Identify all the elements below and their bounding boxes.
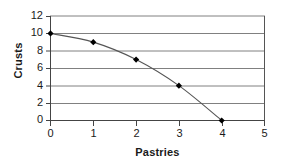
y-tick-label: 10 bbox=[31, 26, 43, 38]
data-point bbox=[90, 39, 96, 45]
x-tick-label: 4 bbox=[219, 127, 225, 139]
gridlines-horizontal bbox=[50, 34, 265, 104]
x-tick-label: 5 bbox=[261, 127, 267, 139]
plot-area: 0 2 4 6 8 10 12 0 1 2 3 4 5 bbox=[0, 0, 299, 165]
y-tick-label: 8 bbox=[37, 44, 43, 56]
y-tick-label: 2 bbox=[37, 96, 43, 108]
series-line bbox=[51, 33, 222, 120]
x-tick-label: 0 bbox=[47, 127, 53, 139]
series-markers bbox=[47, 30, 224, 123]
x-tick-label: 3 bbox=[176, 127, 182, 139]
x-tick-labels: 0 1 2 3 4 5 bbox=[47, 127, 267, 139]
x-axis-ticks bbox=[51, 121, 265, 126]
y-tick-labels: 0 2 4 6 8 10 12 bbox=[31, 9, 43, 125]
y-tick-label: 0 bbox=[37, 113, 43, 125]
y-tick-label: 12 bbox=[31, 9, 43, 21]
x-tick-label: 2 bbox=[133, 127, 139, 139]
data-point bbox=[133, 56, 139, 62]
y-tick-label: 4 bbox=[37, 79, 43, 91]
chart-container: Crusts Pastries bbox=[0, 0, 299, 165]
x-tick-label: 1 bbox=[90, 127, 96, 139]
y-tick-label: 6 bbox=[37, 61, 43, 73]
data-point bbox=[47, 30, 53, 36]
